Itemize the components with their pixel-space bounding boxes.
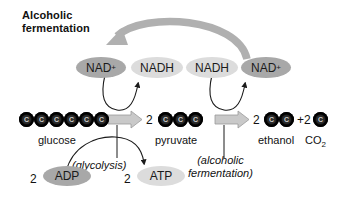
atp-coefficient: 2 <box>124 173 131 185</box>
fermentation-reaction-arrow <box>215 111 249 128</box>
nadh-left-label: NADH <box>140 62 174 74</box>
pyruvate-carbon-1: C <box>158 112 173 127</box>
figure-title-line2: fermentation <box>22 22 90 34</box>
figure-title-line1: Alcoholic <box>22 9 72 21</box>
atp-oval: ATP <box>137 166 185 186</box>
glucose-carbon-2: C <box>34 112 49 127</box>
glucose-carbon-5: C <box>79 112 94 127</box>
pyruvate-label: pyruvate <box>155 134 197 146</box>
co2-coefficient: +2 <box>297 114 311 126</box>
pyruvate-coefficient: 2 <box>146 114 153 126</box>
glucose-carbon-6: C <box>94 112 109 127</box>
nad-recycling-arrow <box>106 21 247 59</box>
glycolysis-redox-curve <box>103 75 138 110</box>
nad-plus-right-oval: NAD+ <box>241 57 291 78</box>
nad-plus-left-oval: NAD+ <box>76 57 126 78</box>
nadh-left-oval: NADH <box>131 57 183 78</box>
glucose-carbon-4: C <box>64 112 79 127</box>
co2-carbon-1: C <box>313 112 328 127</box>
figure-title: Alcoholicfermentation <box>22 9 90 35</box>
fermentation-redox-curve <box>210 75 245 110</box>
atp-label: ATP <box>150 170 172 182</box>
ethanol-carbon-1: C <box>264 112 279 127</box>
nadh-right-label: NADH <box>195 62 229 74</box>
fermentation-label-line1: (alcoholic <box>197 154 243 166</box>
glucose-carbon-1: C <box>19 112 34 127</box>
adp-coefficient: 2 <box>30 173 37 185</box>
pyruvate-carbon-2: C <box>173 112 188 127</box>
alcoholic-fermentation-diagram: Alcoholicfermentation NAD+ NADH NADH NAD… <box>0 0 347 201</box>
adp-label: ADP <box>55 170 80 182</box>
adp-oval: ADP <box>43 166 91 186</box>
co2-subscript: 2 <box>322 140 326 149</box>
nadh-right-oval: NADH <box>186 57 238 78</box>
nad-plus-left-label: NAD <box>86 62 111 74</box>
ethanol-carbon-2: C <box>279 112 294 127</box>
pyruvate-carbon-3: C <box>188 112 203 127</box>
ethanol-label: ethanol <box>258 134 294 146</box>
fermentation-label-line2: fermentation) <box>188 167 253 179</box>
nad-plus-right-label: NAD <box>251 62 276 74</box>
glucose-carbon-3: C <box>49 112 64 127</box>
co2-label: CO2 <box>305 134 326 146</box>
alcoholic-fermentation-label: (alcoholicfermentation) <box>188 154 253 180</box>
glucose-label: glucose <box>38 134 76 146</box>
ethanol-coefficient: 2 <box>253 114 260 126</box>
co2-formula: CO <box>305 134 322 146</box>
glycolysis-reaction-arrow <box>108 111 142 128</box>
